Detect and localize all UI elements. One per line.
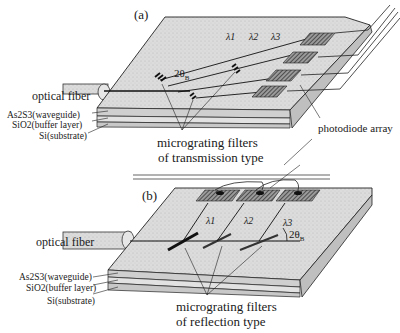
- panel-a-lambda1: λ1: [226, 32, 235, 42]
- panel-b-label: (b): [142, 189, 157, 202]
- panel-a-lambda3: λ3: [271, 32, 280, 42]
- panel-a-layer-buffer: SiO2(buffer layer): [12, 121, 82, 131]
- panel-b-layer-waveguide: As2S3(waveguide): [19, 273, 92, 283]
- panel-b-filters-line2: of reflection type: [176, 314, 277, 329]
- panel-a-bragg-angle: 2θB: [174, 68, 189, 82]
- panel-a-layer-substrate: Si(substrate): [39, 132, 87, 142]
- photodiode-array-label: photodiode array: [318, 123, 393, 134]
- panel-a-lambda2: λ2: [249, 32, 258, 42]
- panel-b-drawing: [63, 165, 372, 297]
- panel-a-label: (a): [134, 8, 148, 21]
- panel-a-filters-label: micrograting filters of transmission typ…: [157, 135, 263, 165]
- panel-b-filters-line1: micrograting filters: [176, 299, 277, 314]
- panel-a-bragg-angle-sub: B: [185, 74, 190, 82]
- panel-b-bragg-angle: 2θB: [289, 229, 304, 243]
- panel-b-lambda2: λ2: [244, 216, 253, 226]
- panel-b-bragg-angle-sub: B: [300, 235, 305, 243]
- panel-b-filters-label: micrograting filters of reflection type: [176, 299, 277, 329]
- panel-b-bragg-angle-text: 2θ: [289, 228, 300, 240]
- panel-a-optical-fiber-label: optical fiber: [32, 90, 90, 102]
- panel-b-optical-fiber-label: optical fiber: [36, 236, 94, 248]
- panel-b-layer-buffer: SiO2(buffer layer): [26, 284, 96, 294]
- panel-b-layer-substrate: Si(substrate): [47, 297, 95, 307]
- panel-a-filters-line1: micrograting filters: [157, 135, 263, 150]
- panel-a-filters-line2: of transmission type: [157, 150, 263, 165]
- panel-b-lambda3: λ3: [283, 218, 292, 228]
- panel-a-bragg-angle-text: 2θ: [174, 67, 185, 79]
- panel-b-lambda1: λ1: [206, 216, 215, 226]
